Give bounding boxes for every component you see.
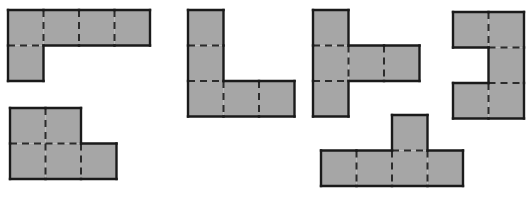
- P-pentomino-bottom-left: [10, 108, 117, 179]
- pentomino-svg: [0, 0, 532, 197]
- pentomino-cell: [46, 108, 82, 144]
- pentomino-cell: [46, 144, 82, 180]
- pentomino-cell: [81, 144, 117, 180]
- Y-pentomino-bottom-center: [321, 115, 463, 186]
- pentomino-cell: [188, 81, 224, 117]
- pentomino-cell: [8, 10, 44, 46]
- pentomino-cell: [224, 81, 260, 117]
- pentomino-cell: [392, 151, 428, 187]
- pentomino-cell: [188, 46, 224, 82]
- pentomino-cell: [313, 10, 349, 46]
- pentomino-cell: [313, 46, 349, 82]
- C-pentomino-far-right: [453, 12, 524, 119]
- pentomino-cell: [79, 10, 115, 46]
- V-pentomino-center-left: [188, 10, 295, 117]
- pentomino-cell: [321, 151, 357, 187]
- pentomino-cell: [453, 83, 489, 119]
- pentomino-cell: [392, 115, 428, 151]
- pentomino-cell: [489, 48, 525, 84]
- pentomino-cell: [10, 144, 46, 180]
- T-pentomino-center-right: [313, 10, 420, 117]
- pentomino-cell: [489, 83, 525, 119]
- L-pentomino-top-left: [8, 10, 150, 81]
- pentomino-cell: [259, 81, 295, 117]
- pentomino-cell: [453, 12, 489, 48]
- pentomino-cell: [357, 151, 393, 187]
- pentomino-cell: [188, 10, 224, 46]
- pentomino-figure-canvas: [0, 0, 532, 197]
- pentomino-cell: [384, 46, 420, 82]
- pentomino-cell: [8, 46, 44, 82]
- pentomino-cell: [489, 12, 525, 48]
- pentomino-cell: [313, 81, 349, 117]
- pentomino-cell: [44, 10, 80, 46]
- pentomino-cell: [10, 108, 46, 144]
- pentomino-cell: [115, 10, 151, 46]
- pentomino-cell: [349, 46, 385, 82]
- pentomino-cell: [428, 151, 464, 187]
